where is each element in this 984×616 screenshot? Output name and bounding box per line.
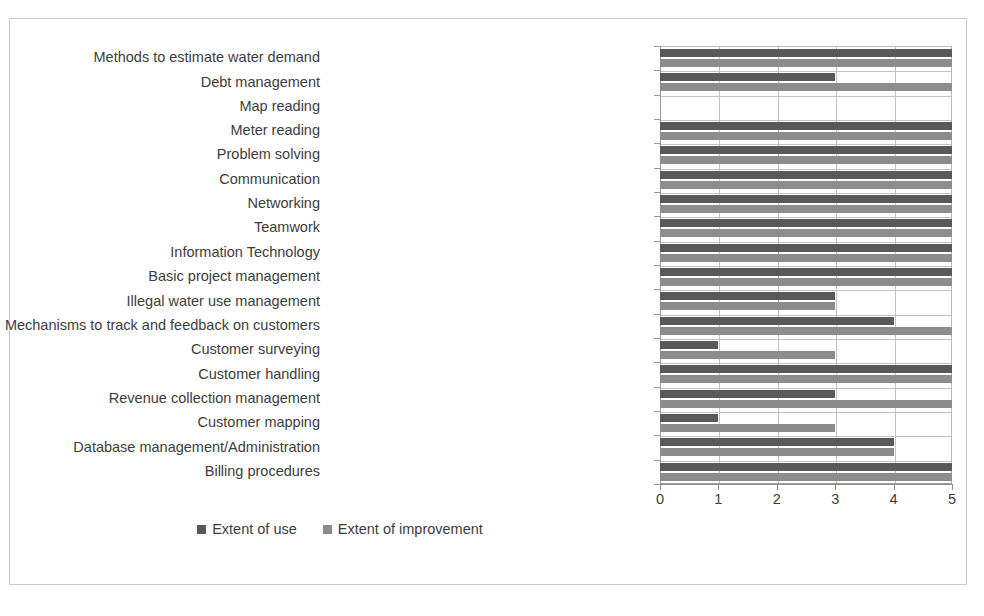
bar-extent-of-use [660, 414, 718, 422]
bar-group [660, 461, 952, 484]
bar-group [660, 242, 952, 265]
chart-legend: Extent of useExtent of improvement [0, 521, 680, 537]
bar-group [660, 120, 952, 143]
bar-extent-of-use [660, 365, 952, 373]
category-label: Information Technology [0, 245, 320, 260]
bar-group [660, 169, 952, 192]
category-label: Customer surveying [0, 342, 320, 357]
bar-group [660, 266, 952, 289]
bar-group [660, 290, 952, 313]
x-axis-tick [894, 485, 895, 490]
legend-swatch-icon [323, 525, 332, 534]
category-label: Illegal water use management [0, 294, 320, 309]
legend-swatch-icon [197, 525, 206, 534]
category-label: Problem solving [0, 147, 320, 162]
bar-extent-of-improvement [660, 424, 835, 432]
bar-extent-of-improvement [660, 400, 952, 408]
category-label: Meter reading [0, 123, 320, 138]
category-label: Basic project management [0, 269, 320, 284]
bar-extent-of-improvement [660, 473, 952, 481]
bar-group [660, 144, 952, 167]
bar-group [660, 388, 952, 411]
x-axis-tick-label: 0 [640, 491, 680, 507]
category-label: Revenue collection management [0, 391, 320, 406]
category-label: Communication [0, 172, 320, 187]
bar-extent-of-use [660, 73, 835, 81]
bar-extent-of-improvement [660, 302, 835, 310]
bar-extent-of-improvement [660, 156, 952, 164]
x-axis-tick [952, 485, 953, 490]
bar-group [660, 339, 952, 362]
bar-extent-of-use [660, 390, 835, 398]
bar-group [660, 47, 952, 70]
bar-extent-of-use [660, 171, 952, 179]
x-axis-tick-label: 4 [874, 491, 914, 507]
x-axis-tick [835, 485, 836, 490]
category-label: Map reading [0, 99, 320, 114]
bar-extent-of-use [660, 146, 952, 154]
legend-label: Extent of use [212, 521, 297, 537]
category-label: Methods to estimate water demand [0, 50, 320, 65]
legend-item[interactable]: Extent of use [197, 521, 297, 537]
bar-extent-of-improvement [660, 132, 952, 140]
bar-extent-of-improvement [660, 351, 835, 359]
bar-extent-of-use [660, 268, 952, 276]
bar-group [660, 96, 952, 119]
category-label: Customer handling [0, 367, 320, 382]
bar-extent-of-improvement [660, 278, 952, 286]
bar-extent-of-use [660, 463, 952, 471]
bar-group [660, 436, 952, 459]
legend-item[interactable]: Extent of improvement [323, 521, 483, 537]
x-axis-tick-label: 2 [757, 491, 797, 507]
category-label: Customer mapping [0, 415, 320, 430]
bar-extent-of-improvement [660, 254, 952, 262]
bar-extent-of-use [660, 317, 894, 325]
x-axis-line [660, 484, 953, 485]
bar-extent-of-improvement [660, 181, 952, 189]
bar-extent-of-improvement [660, 448, 894, 456]
x-axis-tick [718, 485, 719, 490]
bar-extent-of-improvement [660, 327, 952, 335]
category-label: Mechanisms to track and feedback on cust… [0, 318, 320, 333]
bar-extent-of-improvement [660, 83, 952, 91]
bar-extent-of-improvement [660, 205, 952, 213]
bar-group [660, 71, 952, 94]
category-label: Networking [0, 196, 320, 211]
x-axis-tick-label: 3 [815, 491, 855, 507]
bar-group [660, 193, 952, 216]
bar-group [660, 412, 952, 435]
bar-extent-of-use [660, 244, 952, 252]
x-axis-tick-label: 1 [698, 491, 738, 507]
bar-group [660, 315, 952, 338]
bar-extent-of-use [660, 195, 952, 203]
category-label: Billing procedures [0, 464, 320, 479]
legend-label: Extent of improvement [338, 521, 483, 537]
bar-extent-of-use [660, 122, 952, 130]
bar-extent-of-use [660, 292, 835, 300]
bar-group [660, 363, 952, 386]
bar-extent-of-use [660, 438, 894, 446]
bar-extent-of-improvement [660, 229, 952, 237]
bar-extent-of-use [660, 49, 952, 57]
x-axis-tick [660, 485, 661, 490]
bar-group [660, 217, 952, 240]
bar-extent-of-use [660, 219, 952, 227]
x-axis-tick-label: 5 [932, 491, 972, 507]
category-label: Database management/Administration [0, 440, 320, 455]
category-label: Debt management [0, 75, 320, 90]
bar-chart: Methods to estimate water demandDebt man… [0, 0, 984, 616]
category-label: Teamwork [0, 220, 320, 235]
x-axis-tick [777, 485, 778, 490]
bar-extent-of-improvement [660, 59, 952, 67]
bar-extent-of-use [660, 341, 718, 349]
bar-extent-of-improvement [660, 375, 952, 383]
